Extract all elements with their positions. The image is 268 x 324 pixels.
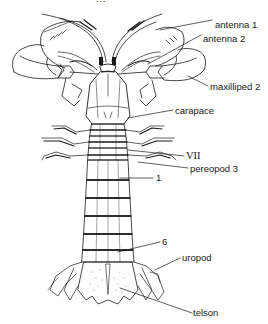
- label-uropod: uropod: [182, 253, 212, 263]
- label-antenna-2: antenna 2: [203, 34, 245, 44]
- label-antenna-1: antenna 1: [215, 20, 257, 30]
- label-abdominal-somite-6: 6: [162, 237, 167, 247]
- abdomen-drawing: [82, 160, 134, 262]
- stomatopod-drawing: [0, 0, 268, 324]
- pereopods-left-drawing: [42, 126, 90, 160]
- carapace-drawing: [86, 72, 130, 124]
- label-telson: telson: [193, 308, 218, 318]
- telson-stippling: [90, 270, 127, 293]
- thoracic-segments-drawing: [88, 124, 128, 160]
- left-maxilliped-2-drawing: [12, 21, 98, 106]
- pereopods-right-drawing: [126, 126, 176, 160]
- label-thoracic-segment-vii: VII: [186, 151, 201, 162]
- antenna-1-drawing: [42, 14, 162, 62]
- label-pereopod-3: pereopod 3: [190, 164, 238, 174]
- label-carapace: carapace: [175, 106, 214, 116]
- label-abdominal-somite-1: 1: [156, 173, 161, 183]
- telson-drawing: [78, 262, 138, 304]
- antenna-2-drawing: [58, 52, 160, 70]
- right-maxilliped-2-drawing: [118, 27, 206, 106]
- label-maxilliped-2: maxilliped 2: [210, 82, 260, 92]
- eyes-drawing: [99, 57, 116, 72]
- diagram-figure: ...: [0, 0, 268, 324]
